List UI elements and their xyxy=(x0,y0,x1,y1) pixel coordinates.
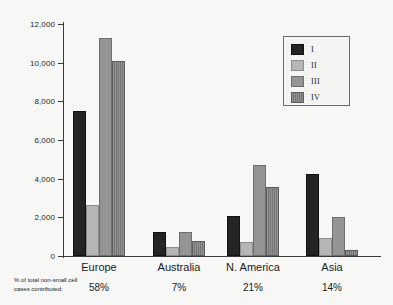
bar[interactable] xyxy=(332,217,345,256)
category-percentage-label: 14% xyxy=(322,282,342,293)
bar[interactable] xyxy=(240,242,253,257)
x-axis-category-label: N. America xyxy=(226,261,280,273)
y-axis-tick-label: 10,000 xyxy=(30,58,55,67)
bar-group xyxy=(153,24,205,256)
bar[interactable] xyxy=(179,232,192,256)
bar-group xyxy=(227,24,279,256)
bar-group xyxy=(73,24,125,256)
legend-item[interactable]: IV xyxy=(291,90,349,105)
y-axis-tick-label: 2,000 xyxy=(34,213,55,222)
bar[interactable] xyxy=(319,238,332,256)
y-axis-tick-label: 8,000 xyxy=(34,97,55,106)
bar[interactable] xyxy=(86,205,99,256)
y-axis-tick-label: 12,000 xyxy=(30,20,55,29)
bar[interactable] xyxy=(253,165,266,256)
legend-item[interactable]: II xyxy=(291,58,349,73)
bar[interactable] xyxy=(99,38,112,256)
footnote: % of total non-small cell cases contribu… xyxy=(14,276,77,293)
x-axis-category-label: Europe xyxy=(81,261,116,273)
y-axis-tick-label: 0 xyxy=(50,252,55,261)
bar[interactable] xyxy=(306,174,319,256)
y-axis-tick-label: 4,000 xyxy=(34,174,55,183)
footnote-line-2: cases contributed: xyxy=(14,285,77,294)
legend-item[interactable]: I xyxy=(291,42,349,57)
bar[interactable] xyxy=(73,111,86,256)
bar[interactable] xyxy=(227,216,240,256)
y-axis-tick-label: 6,000 xyxy=(34,136,55,145)
bar[interactable] xyxy=(112,61,125,256)
footnote-line-1: % of total non-small cell xyxy=(14,276,77,285)
legend-swatch-icon xyxy=(291,92,304,103)
category-percentage-label: 7% xyxy=(172,282,186,293)
legend-swatch-icon xyxy=(291,60,304,71)
bar[interactable] xyxy=(266,187,279,256)
y-axis-tick xyxy=(58,256,64,257)
category-percentage-label: 21% xyxy=(243,282,263,293)
x-axis-category-label: Asia xyxy=(321,261,342,273)
legend-item-label: I xyxy=(311,45,314,54)
bar[interactable] xyxy=(192,241,205,256)
bar[interactable] xyxy=(166,247,179,256)
legend-item-label: IV xyxy=(311,93,320,102)
x-axis-line xyxy=(63,256,381,257)
legend-item[interactable]: III xyxy=(291,74,349,89)
bar[interactable] xyxy=(345,250,358,256)
x-axis-category-label: Australia xyxy=(158,261,201,273)
bar-chart: 02,0004,0006,0008,00010,00012,000 Europe… xyxy=(0,0,393,305)
legend-item-label: III xyxy=(311,77,320,86)
legend: IIIIIIIV xyxy=(283,36,350,106)
legend-item-label: II xyxy=(311,61,317,70)
legend-swatch-icon xyxy=(291,44,304,55)
bar[interactable] xyxy=(153,232,166,256)
legend-swatch-icon xyxy=(291,76,304,87)
category-percentage-label: 58% xyxy=(89,282,109,293)
